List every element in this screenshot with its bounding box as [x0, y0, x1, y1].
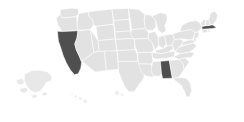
state-KS[interactable] — [116, 38, 135, 50]
state-ND[interactable] — [112, 8, 129, 20]
state-AR[interactable] — [137, 52, 152, 64]
state-PA[interactable] — [173, 30, 195, 40]
state-ME[interactable] — [209, 11, 218, 25]
state-MS[interactable] — [151, 61, 161, 76]
us-states-map[interactable] — [0, 0, 244, 122]
state-WY[interactable] — [96, 24, 115, 40]
state-FL[interactable] — [172, 77, 191, 97]
state-CT[interactable] — [202, 29, 208, 33]
state-NM[interactable] — [104, 51, 118, 70]
inset-alaska[interactable] — [16, 70, 52, 98]
us-map-container — [0, 0, 244, 122]
inset-hawaii[interactable] — [71, 91, 124, 104]
state-IA[interactable] — [131, 29, 149, 39]
state-CO[interactable] — [98, 39, 117, 51]
state-OK[interactable] — [117, 50, 138, 62]
state-RI[interactable] — [208, 29, 210, 32]
state-MN[interactable] — [128, 8, 145, 29]
state-SD[interactable] — [114, 19, 131, 32]
